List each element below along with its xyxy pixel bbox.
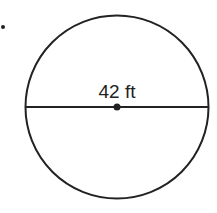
bullet-dot	[1, 25, 5, 29]
center-point	[114, 104, 121, 111]
diameter-label: 42 ft	[99, 81, 137, 102]
circle-diagram: 42 ft	[0, 0, 217, 213]
